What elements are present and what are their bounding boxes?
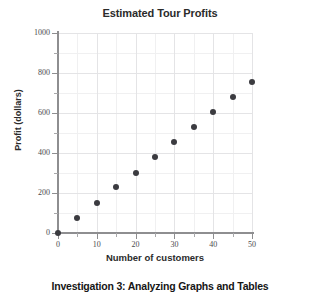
y-axis-tick-minor (54, 93, 58, 94)
gridline-vertical (213, 33, 214, 233)
x-axis-tick-label: 20 (124, 240, 148, 249)
gridline-vertical (252, 33, 253, 233)
x-axis-tick (136, 233, 137, 239)
data-point (249, 79, 255, 85)
x-axis-tick (174, 233, 175, 239)
x-axis-tick-label: 10 (85, 240, 109, 249)
y-axis-tick (52, 33, 58, 34)
x-axis-tick-minor (116, 233, 117, 237)
x-axis-tick-label: 40 (201, 240, 225, 249)
y-axis-tick-minor (54, 53, 58, 54)
x-axis-tick (252, 233, 253, 239)
y-axis-tick-label: 600 (4, 108, 50, 117)
x-axis-tick-minor (77, 233, 78, 237)
gridline-horizontal (58, 193, 252, 194)
gridline-horizontal-minor (58, 213, 252, 214)
data-point (133, 170, 139, 176)
x-axis-tick-minor (233, 233, 234, 237)
gridline-horizontal-minor (58, 133, 252, 134)
gridline-horizontal (58, 33, 252, 34)
data-point (55, 230, 61, 236)
y-axis-tick-minor (54, 173, 58, 174)
data-point (230, 94, 236, 100)
gridline-horizontal (58, 73, 252, 74)
x-axis-tick (97, 233, 98, 239)
gridline-vertical (136, 33, 137, 233)
data-point (191, 124, 197, 130)
y-axis-tick (52, 73, 58, 74)
y-axis-tick (52, 193, 58, 194)
y-axis-tick-label: 800 (4, 68, 50, 77)
plot-area (58, 33, 252, 233)
y-axis-tick (52, 113, 58, 114)
x-axis-tick (213, 233, 214, 239)
x-axis-tick-label: 50 (240, 240, 264, 249)
x-axis-title: Number of customers (40, 252, 270, 263)
x-axis-tick-label: 0 (46, 240, 70, 249)
y-axis-tick-label: 200 (4, 188, 50, 197)
y-axis-tick (52, 153, 58, 154)
data-point (210, 109, 216, 115)
chart-figure: Estimated Tour Profits Profit (dollars) … (0, 0, 320, 299)
y-axis-tick-minor (54, 133, 58, 134)
gridline-horizontal-minor (58, 173, 252, 174)
y-axis-tick-label: 1000 (4, 28, 50, 37)
gridline-horizontal-minor (58, 53, 252, 54)
y-axis-tick-label: 0 (4, 228, 50, 237)
gridline-horizontal-minor (58, 93, 252, 94)
data-point (94, 200, 100, 206)
x-axis-tick-minor (155, 233, 156, 237)
x-axis-tick-label: 30 (162, 240, 186, 249)
y-axis-tick-minor (54, 213, 58, 214)
x-axis-tick-minor (194, 233, 195, 237)
y-axis-tick-labels: 02004006008001000 (0, 0, 50, 299)
y-axis-tick-label: 400 (4, 148, 50, 157)
gridline-vertical (174, 33, 175, 233)
gridline-horizontal (58, 113, 252, 114)
page-caption: Investigation 3: Analyzing Graphs and Ta… (0, 280, 320, 292)
